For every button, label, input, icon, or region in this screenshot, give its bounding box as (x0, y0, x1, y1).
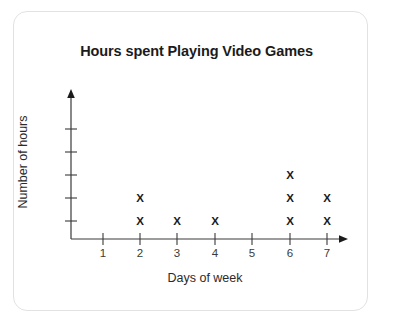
x-axis-arrow-icon (339, 235, 348, 243)
data-marker: X (283, 168, 297, 182)
x-tick-label-1: 1 (93, 247, 113, 259)
chart-plot-area (0, 0, 393, 327)
x-tick-label-7: 7 (317, 247, 337, 259)
x-tick-label-5: 5 (242, 247, 262, 259)
data-marker: X (133, 214, 147, 228)
data-marker: X (283, 214, 297, 228)
x-tick-label-6: 6 (280, 247, 300, 259)
data-marker: X (133, 191, 147, 205)
y-axis-arrow-icon (67, 89, 75, 98)
data-marker: X (283, 191, 297, 205)
data-marker: X (208, 214, 222, 228)
x-tick-label-4: 4 (205, 247, 225, 259)
data-marker: X (320, 191, 334, 205)
data-marker: X (170, 214, 184, 228)
data-marker: X (320, 214, 334, 228)
x-tick-label-3: 3 (167, 247, 187, 259)
x-tick-label-2: 2 (130, 247, 150, 259)
